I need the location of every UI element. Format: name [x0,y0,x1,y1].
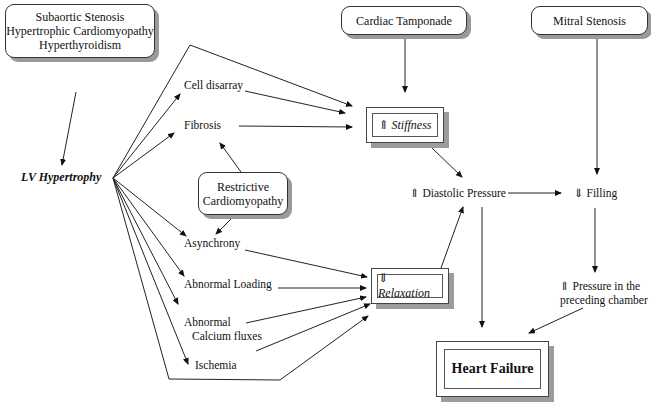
cause-subaortic-stenosis: Subaortic Stenosis [36,10,125,24]
connector-arrows [0,0,651,406]
restrictive-label-line2: Cardiomyopathy [203,194,284,208]
stiffness-label: ⇑ Stiffness [372,113,438,137]
cause-hypertrophic-cardiomyopathy: Hypertrophic Cardiomyopathy [6,24,154,38]
heart-failure-box: Heart Failure [436,341,549,397]
stiffness-box: ⇑ Stiffness [366,107,444,143]
preceding-chamber-label-line2: preceding chamber [560,294,648,307]
restrictive-cardiomyopathy-box: Restrictive Cardiomyopathy [198,172,288,215]
lv-hypertrophy-label: LV Hypertrophy [21,171,101,184]
cell-disarray-label: Cell disarray [184,79,243,92]
cardiac-tamponade-label: Cardiac Tamponade [356,14,452,28]
relaxation-label: ⇓ Relaxation [377,274,443,298]
relaxation-box: ⇓ Relaxation [371,268,449,304]
asynchrony-label: Asynchrony [184,237,240,250]
abnormal-calcium-label-line1: Abnormal [184,316,231,329]
cardiac-tamponade-box: Cardiac Tamponade [341,6,467,35]
lv-causes-box: Subaortic Stenosis Hypertrophic Cardiomy… [5,4,155,58]
restrictive-label-line1: Restrictive [217,180,269,194]
abnormal-calcium-label-line2: Calcium fluxes [192,330,262,343]
preceding-chamber-label-line1: ⇑ Pressure in the [560,280,640,293]
diastolic-pressure-label: ⇑ Diastolic Pressure [410,187,506,200]
mitral-stenosis-label: Mitral Stenosis [553,14,626,28]
fibrosis-label: Fibrosis [184,119,221,132]
mitral-stenosis-box: Mitral Stenosis [531,6,648,35]
filling-label: ⇓ Filling [574,187,617,200]
heart-failure-label: Heart Failure [444,349,541,389]
ischemia-label: Ischemia [195,359,237,372]
cause-hyperthyroidism: Hyperthyroidism [39,38,121,52]
abnormal-loading-label: Abnormal Loading [184,278,272,291]
